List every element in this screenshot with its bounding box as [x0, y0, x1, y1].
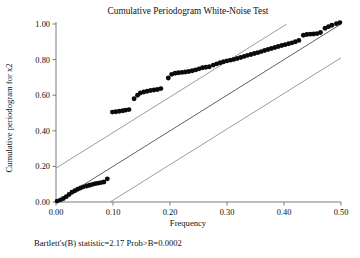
cumulative-periodogram-chart: Cumulative Periodogram White-Noise Test … — [0, 0, 360, 258]
x-tick-label: 0.40 — [277, 208, 292, 217]
chart-title: Cumulative Periodogram White-Noise Test — [108, 6, 269, 16]
x-tick-label: 0.30 — [220, 208, 235, 217]
x-tick-label: 0.50 — [334, 208, 349, 217]
x-tick-label: 0.10 — [106, 208, 121, 217]
x-tick-label: 0.20 — [163, 208, 178, 217]
data-point — [166, 75, 171, 80]
footnote-statistic: Bartlett's(B) statistic=2.17 Prob>B=0.00… — [34, 238, 182, 248]
y-tick-label: 0.60 — [35, 91, 50, 100]
chart-canvas: Cumulative Periodogram White-Noise Test … — [0, 0, 360, 258]
data-point — [127, 107, 132, 112]
y-tick-label: 1.00 — [35, 20, 50, 29]
y-tick-label: 0.20 — [35, 162, 50, 171]
y-tick-label: 0.80 — [35, 56, 50, 65]
data-point — [132, 96, 137, 101]
data-point — [105, 176, 110, 181]
y-tick-label: 0.00 — [35, 198, 50, 207]
y-axis-title: Cumulative periodogram for x2 — [4, 63, 14, 172]
y-tick-label: 0.40 — [35, 127, 50, 136]
data-point — [158, 86, 163, 91]
data-point — [318, 30, 323, 35]
x-axis-title: Frequency — [170, 218, 207, 228]
data-point — [296, 38, 301, 43]
data-point — [329, 23, 334, 28]
x-tick-label: 0.00 — [49, 208, 64, 217]
data-point — [337, 20, 342, 25]
